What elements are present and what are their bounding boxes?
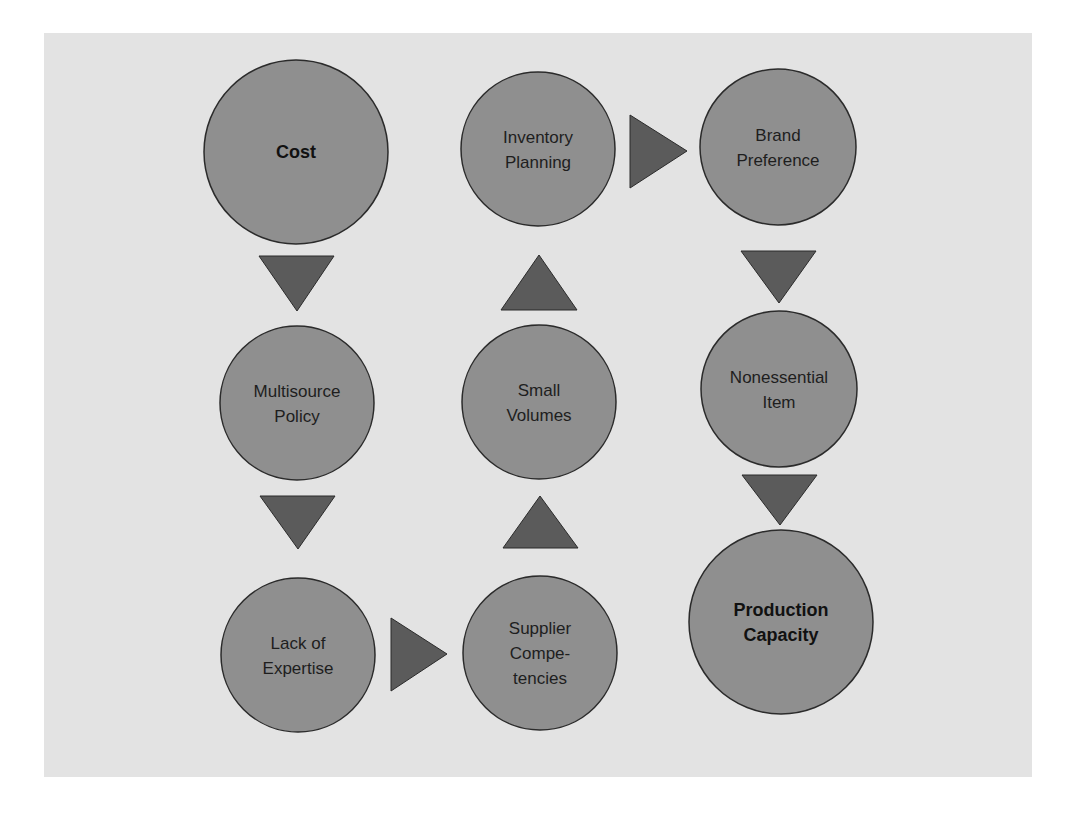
node-label: Planning xyxy=(505,153,571,172)
node-label: Supplier xyxy=(509,619,572,638)
node-lack-of-expertise: Lack ofExpertise xyxy=(221,578,375,732)
flow-diagram: CostMultisourcePolicyLack ofExpertiseSup… xyxy=(0,0,1074,815)
node-brand-preference: BrandPreference xyxy=(700,69,856,225)
node-circle xyxy=(221,578,375,732)
node-multisource-policy: MultisourcePolicy xyxy=(220,326,374,480)
node-circle xyxy=(701,311,857,467)
node-label: Volumes xyxy=(506,406,571,425)
node-label: Multisource xyxy=(254,382,341,401)
node-supplier-competencies: SupplierCompe-tencies xyxy=(463,576,617,730)
node-circle xyxy=(462,325,616,479)
node-label: Preference xyxy=(736,151,819,170)
node-label: Capacity xyxy=(743,625,818,645)
node-label: Expertise xyxy=(263,659,334,678)
node-label: Production xyxy=(734,600,829,620)
node-label: Policy xyxy=(274,407,320,426)
node-label: tencies xyxy=(513,669,567,688)
node-nonessential-item: NonessentialItem xyxy=(701,311,857,467)
node-label: Inventory xyxy=(503,128,573,147)
node-circle xyxy=(461,72,615,226)
node-circle xyxy=(700,69,856,225)
node-label: Nonessential xyxy=(730,368,828,387)
node-production-capacity: ProductionCapacity xyxy=(689,530,873,714)
node-label: Item xyxy=(762,393,795,412)
node-small-volumes: SmallVolumes xyxy=(462,325,616,479)
node-label: Small xyxy=(518,381,561,400)
node-circle xyxy=(220,326,374,480)
nodes-group: CostMultisourcePolicyLack ofExpertiseSup… xyxy=(204,60,873,732)
node-circle xyxy=(689,530,873,714)
node-label: Brand xyxy=(755,126,800,145)
node-inventory-planning: InventoryPlanning xyxy=(461,72,615,226)
node-cost: Cost xyxy=(204,60,388,244)
node-label: Lack of xyxy=(271,634,326,653)
node-label: Cost xyxy=(276,142,316,162)
node-label: Compe- xyxy=(510,644,570,663)
